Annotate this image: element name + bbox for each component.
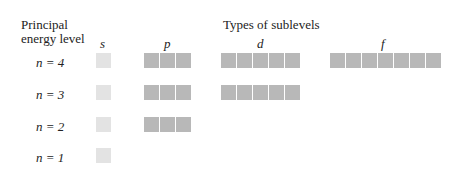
orbital-box [96, 85, 111, 100]
orbital-box [96, 53, 111, 68]
orbital-box [160, 53, 175, 68]
s-label: s [100, 36, 105, 51]
orbital-box [96, 117, 111, 132]
s-orbitals-n2 [96, 117, 111, 132]
orbital-box [160, 85, 175, 100]
orbital-box [269, 53, 284, 68]
p-orbitals-n3 [144, 85, 191, 100]
principal-label-line1: Principal [21, 17, 68, 32]
orbital-box [330, 53, 345, 68]
orbital-box [362, 53, 377, 68]
orbital-box [426, 53, 441, 68]
d-orbitals-n3 [221, 85, 300, 100]
orbital-box [285, 53, 300, 68]
orbital-box [269, 85, 284, 100]
orbital-box [237, 85, 252, 100]
row-label-n2: n = 2 [36, 119, 64, 134]
orbital-box [96, 148, 111, 163]
row-label-n1: n = 1 [36, 150, 64, 165]
orbital-box [221, 85, 236, 100]
p-orbitals-n4 [144, 53, 191, 68]
orbital-box [253, 85, 268, 100]
orbital-box [160, 117, 175, 132]
row-label-n4: n = 4 [36, 55, 64, 70]
p-label: p [164, 36, 171, 51]
sublevels-diagram: Principal energy level Types of sublevel… [0, 0, 455, 175]
s-orbitals-n4 [96, 53, 111, 68]
orbital-box [237, 53, 252, 68]
orbital-box [176, 85, 191, 100]
f-label: f [381, 36, 385, 51]
d-orbitals-n4 [221, 53, 300, 68]
row-label-n3: n = 3 [36, 87, 64, 102]
principal-label-line2: energy level [21, 31, 85, 46]
orbital-box [253, 53, 268, 68]
orbital-box [410, 53, 425, 68]
orbital-box [378, 53, 393, 68]
orbital-box [394, 53, 409, 68]
orbital-box [176, 53, 191, 68]
orbital-box [144, 85, 159, 100]
s-orbitals-n1 [96, 148, 111, 163]
orbital-box [144, 53, 159, 68]
s-orbitals-n3 [96, 85, 111, 100]
orbital-box [221, 53, 236, 68]
sublevels-title: Types of sublevels [223, 17, 320, 32]
orbital-box [346, 53, 361, 68]
f-orbitals-n4 [330, 53, 441, 68]
d-label: d [257, 36, 264, 51]
orbital-box [144, 117, 159, 132]
orbital-box [176, 117, 191, 132]
p-orbitals-n2 [144, 117, 191, 132]
orbital-box [285, 85, 300, 100]
